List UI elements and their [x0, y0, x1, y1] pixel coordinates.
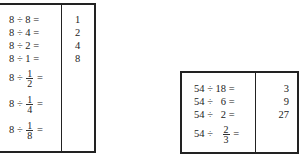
equals: = — [233, 128, 239, 139]
left-answer-2: 2 — [75, 27, 80, 39]
equals: = — [37, 98, 43, 109]
fraction: 14 — [26, 95, 33, 114]
left-row-6: 8 ÷ 14 = — [9, 95, 43, 114]
expr-prefix: 54 ÷ — [194, 128, 213, 139]
equals: = — [37, 72, 43, 83]
left-row-1: 8 ÷ 8 = — [9, 14, 39, 26]
expr-prefix: 8 ÷ — [9, 98, 23, 109]
right-answer-2: 9 — [284, 96, 289, 108]
fraction: 18 — [26, 121, 33, 140]
right-row-1: 54 ÷ 18 = — [194, 83, 235, 95]
left-answer-3: 4 — [75, 40, 80, 52]
right-row-4: 54 ÷ 23 = — [194, 125, 239, 144]
fraction: 23 — [223, 125, 230, 144]
right-answer-1: 3 — [284, 83, 289, 95]
right-row-2: 54 ÷ 6 = — [194, 96, 235, 108]
right-row-3: 54 ÷ 2 = — [194, 109, 235, 121]
left-answer-1: 1 — [75, 14, 80, 26]
fraction: 12 — [26, 69, 33, 88]
left-answer-4: 8 — [75, 53, 80, 65]
right-answer-3: 27 — [279, 109, 290, 121]
expr-prefix: 8 ÷ — [9, 72, 23, 83]
left-row-2: 8 ÷ 4 = — [9, 27, 39, 39]
left-row-7: 8 ÷ 18 = — [9, 121, 43, 140]
left-row-4: 8 ÷ 1 = — [9, 53, 39, 65]
equals: = — [37, 124, 43, 135]
expr-prefix: 8 ÷ — [9, 124, 23, 135]
left-row-5: 8 ÷ 12 = — [9, 69, 43, 88]
left-row-3: 8 ÷ 2 = — [9, 40, 39, 52]
